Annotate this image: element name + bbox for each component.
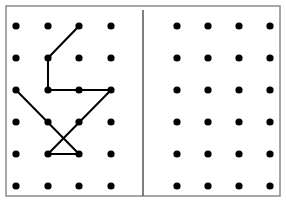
grid-dot	[266, 22, 273, 29]
grid-dot	[12, 86, 19, 93]
grid-dot	[204, 118, 211, 125]
grid-dot	[107, 118, 114, 125]
dot-grid-diagram	[0, 0, 286, 204]
grid-dot	[44, 150, 51, 157]
grid-dot	[75, 150, 82, 157]
grid-dot	[173, 86, 180, 93]
grid-dot	[75, 182, 82, 189]
grid-dot	[235, 22, 242, 29]
grid-dot	[75, 118, 82, 125]
grid-dot	[12, 118, 19, 125]
grid-dot	[204, 22, 211, 29]
grid-dot	[44, 54, 51, 61]
grid-dot	[204, 54, 211, 61]
grid-dot	[173, 22, 180, 29]
grid-dot	[12, 150, 19, 157]
grid-dot	[107, 150, 114, 157]
grid-dot	[75, 54, 82, 61]
grid-dot	[266, 150, 273, 157]
grid-dot	[12, 22, 19, 29]
line-segment	[48, 26, 79, 58]
grid-dot	[107, 54, 114, 61]
grid-dot	[12, 54, 19, 61]
grid-dot	[235, 182, 242, 189]
grid-dot	[235, 86, 242, 93]
grid-dot	[173, 118, 180, 125]
grid-dot	[266, 182, 273, 189]
grid-dot	[44, 182, 51, 189]
grid-dot	[235, 54, 242, 61]
grid-dot	[204, 150, 211, 157]
grid-dot	[44, 22, 51, 29]
grid-dot	[173, 150, 180, 157]
grid-dot	[173, 54, 180, 61]
grid-dot	[204, 86, 211, 93]
grid-dot	[12, 182, 19, 189]
grid-dot	[204, 182, 211, 189]
left-grid	[12, 22, 114, 189]
grid-dot	[44, 86, 51, 93]
grid-dot	[44, 118, 51, 125]
grid-dot	[266, 54, 273, 61]
grid-dot	[75, 86, 82, 93]
right-grid	[173, 22, 273, 189]
grid-dot	[235, 150, 242, 157]
grid-dot	[107, 86, 114, 93]
grid-dot	[173, 182, 180, 189]
grid-dot	[75, 22, 82, 29]
grid-dot	[107, 22, 114, 29]
grid-dot	[107, 182, 114, 189]
grid-dot	[266, 86, 273, 93]
grid-dot	[235, 118, 242, 125]
grid-dot	[266, 118, 273, 125]
